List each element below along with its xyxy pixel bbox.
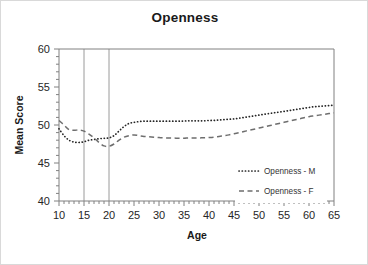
x-tick-label-20: 20: [103, 209, 115, 221]
x-axis-title: Age: [187, 229, 207, 241]
y-tick-label-55: 55: [38, 81, 50, 93]
x-tick-label-40: 40: [203, 209, 215, 221]
series-line-openness-f: [59, 113, 334, 147]
legend-label-openness-m: Openness - M: [264, 167, 316, 176]
x-tick-label-30: 30: [153, 209, 165, 221]
y-tick-label-50: 50: [38, 119, 50, 131]
y-axis-title: Mean Score: [13, 95, 25, 154]
y-tick-label-45: 45: [38, 157, 50, 169]
x-tick-label-35: 35: [178, 209, 190, 221]
series-layer: [59, 105, 334, 146]
chart-legend: Openness - MOpenness - F: [235, 159, 327, 203]
y-tick-label-40: 40: [38, 195, 50, 207]
x-tick-label-60: 60: [303, 209, 315, 221]
legend-label-openness-f: Openness - F: [264, 187, 314, 196]
x-tick-label-50: 50: [253, 209, 265, 221]
series-line-openness-m: [59, 105, 334, 142]
x-tick-label-45: 45: [228, 209, 240, 221]
x-tick-label-65: 65: [328, 209, 340, 221]
x-tick-label-55: 55: [278, 209, 290, 221]
grid-layer: [84, 49, 109, 201]
legend-background: [235, 159, 327, 203]
x-tick-label-15: 15: [78, 209, 90, 221]
openness-line-chart: 4045505560101520253035404550556065 Openn…: [1, 1, 368, 265]
x-tick-label-10: 10: [53, 209, 65, 221]
y-tick-label-60: 60: [38, 43, 50, 55]
chart-card: Openness 4045505560101520253035404550556…: [0, 0, 368, 265]
x-tick-label-25: 25: [128, 209, 140, 221]
